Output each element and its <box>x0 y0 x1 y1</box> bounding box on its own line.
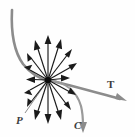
vector-up-right-shallow-head <box>68 63 77 71</box>
vector-burst-figure: P C T <box>0 0 135 137</box>
vector-right-head <box>61 75 70 82</box>
vector-down-left-steep-head <box>34 110 41 121</box>
vector-up-left-steep-head <box>34 40 41 51</box>
vector-up-right <box>48 54 68 80</box>
vector-down-left-shallow-head <box>24 90 32 96</box>
label-t: T <box>107 79 114 90</box>
vector-down-head <box>45 114 52 124</box>
vector-up-head <box>45 35 52 44</box>
label-p: P <box>16 115 23 126</box>
vector-left-head <box>26 76 35 83</box>
curve-t-arrowhead <box>115 93 127 101</box>
burst-center-dot <box>45 77 52 83</box>
vector-up-right-steep-head <box>56 39 63 49</box>
vector-down-left <box>31 80 48 102</box>
vector-up-left-head <box>27 53 32 62</box>
vector-down-right-steep-head <box>56 110 63 121</box>
label-c: C <box>74 120 81 131</box>
